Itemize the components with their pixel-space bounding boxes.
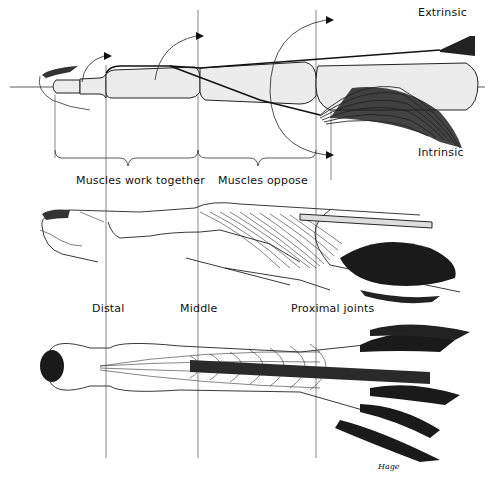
label-middle: Middle [180, 302, 218, 315]
label-extrinsic: Extrinsic [418, 6, 467, 19]
dorsal-tendon-rod [190, 360, 430, 384]
label-muscles-oppose: Muscles oppose [218, 174, 308, 187]
fingernail [42, 66, 78, 78]
artist-signature: Hage [378, 462, 400, 471]
label-distal: Distal [92, 302, 125, 315]
extrinsic-muscle [440, 36, 475, 56]
dorsal-fingertip [40, 350, 64, 382]
label-muscles-work-together: Muscles work together [76, 174, 205, 187]
lateral-intrinsic-muscle [340, 242, 456, 286]
label-intrinsic: Intrinsic [418, 146, 464, 159]
brackets [55, 150, 316, 166]
label-proximal-joints: Proximal joints [291, 302, 375, 315]
extensor-tendon-rod [300, 214, 432, 228]
finger-diagram [0, 0, 492, 484]
